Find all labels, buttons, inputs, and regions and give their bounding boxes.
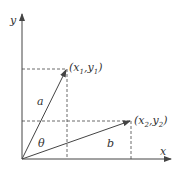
vector-diagram [0, 0, 178, 175]
angle-theta-label: θ [38, 138, 45, 149]
point-1-label: (x1,y1) [69, 62, 102, 76]
point-2-label: (x2,y2) [134, 115, 167, 129]
y-axis-label: y [10, 15, 16, 26]
vector-b-label: b [107, 138, 114, 149]
vector-a-label: a [37, 96, 44, 107]
x-axis-label: x [160, 146, 166, 157]
